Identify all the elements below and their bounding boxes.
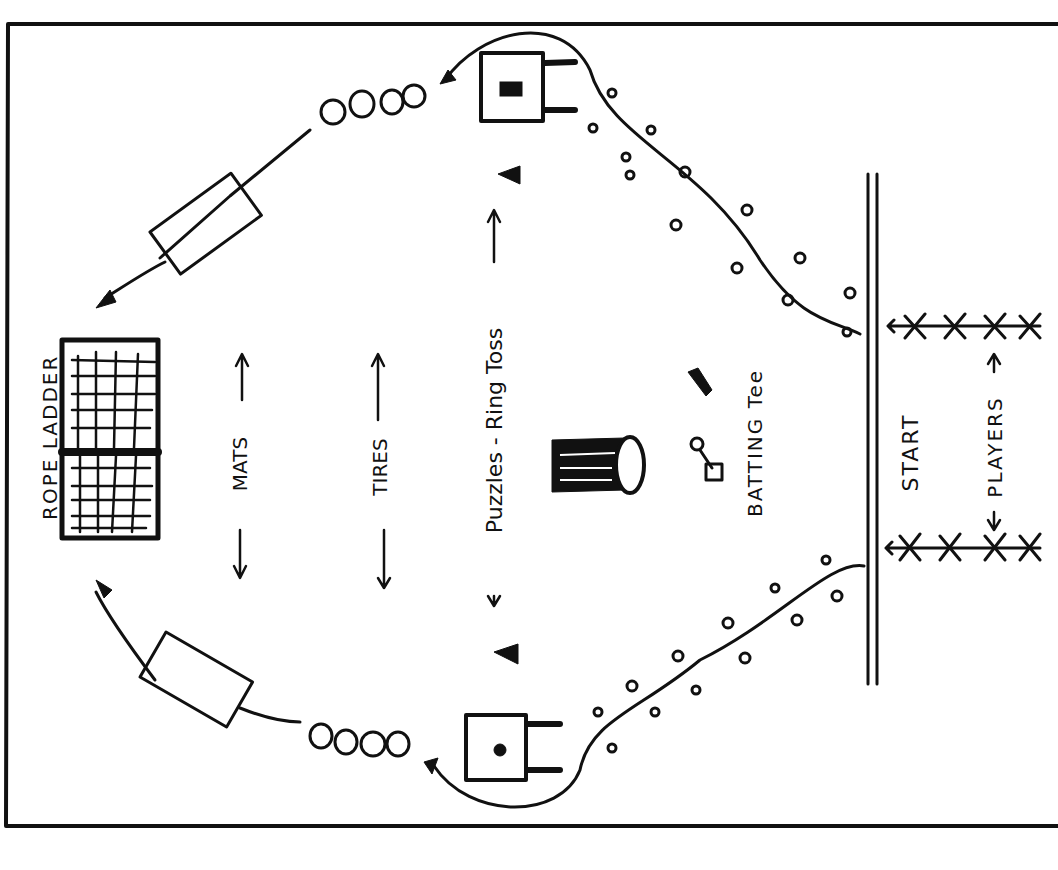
cone-icon	[494, 644, 518, 664]
batting-tee-icon	[688, 368, 722, 480]
start-line	[868, 174, 877, 684]
barrel-icon	[552, 437, 644, 493]
batting-tee-label: BATTING Tee	[743, 387, 767, 517]
balls-bottom	[594, 556, 842, 752]
start-label: START	[898, 403, 923, 503]
box-station-top	[481, 53, 575, 121]
mats-label: MATS	[228, 424, 252, 504]
obstacle-course-diagram: ROPE LADDER MATS TIRES Puzzles - Ring To…	[0, 0, 1058, 870]
puzzles-ring-toss-label: Puzzles - Ring Toss	[482, 321, 507, 541]
players-label: PLAYERS	[983, 392, 1007, 502]
tires-label: TIRES	[368, 427, 392, 507]
players-line-top	[888, 314, 1040, 338]
box-station-bottom	[466, 715, 560, 780]
rope-ladder-label: ROPE LADDER	[38, 360, 62, 520]
top-route	[96, 33, 860, 334]
bottom-route	[96, 566, 864, 807]
rope-ladder-icon	[62, 340, 158, 538]
cone-icon	[498, 166, 520, 184]
players-line-bottom	[886, 534, 1040, 560]
